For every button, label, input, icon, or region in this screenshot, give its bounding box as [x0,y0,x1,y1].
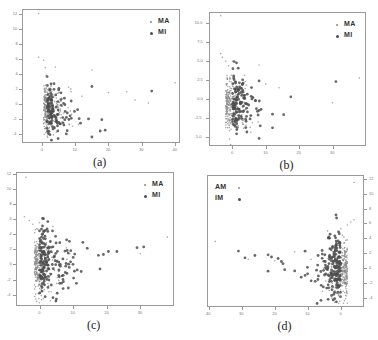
series-am [215,182,355,304]
series-im [237,214,342,305]
panel-caption-d: (d) [278,319,292,334]
legend-label-im: IM [215,194,223,201]
legend-marker-am [238,187,240,189]
legend-marker-im [238,198,241,201]
scatter-points [0,0,378,340]
legend-label-am: AM [215,183,227,190]
